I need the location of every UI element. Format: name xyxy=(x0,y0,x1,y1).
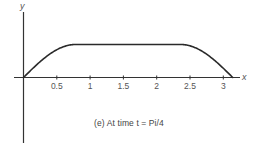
x-tick-label: 2 xyxy=(154,81,159,91)
y-axis-label: y xyxy=(19,1,25,11)
x-tick-label: 0.5 xyxy=(51,81,63,91)
x-tick-label: 1.5 xyxy=(117,81,129,91)
data-curve xyxy=(24,45,233,78)
figure-caption: (e) At time t = Pi/4 xyxy=(0,118,258,128)
x-tick-label: 1 xyxy=(88,81,93,91)
x-tick-label: 2.5 xyxy=(184,81,196,91)
x-tick-label: 3 xyxy=(221,81,226,91)
x-axis-label: x xyxy=(241,72,247,82)
chart-figure: y x 0.511.522.53 (e) At time t = Pi/4 xyxy=(0,0,258,157)
plot-area: y x 0.511.522.53 xyxy=(0,0,258,157)
